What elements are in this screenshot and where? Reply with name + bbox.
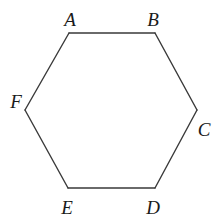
vertex-label-e: E [60,197,73,218]
vertex-labels: A B C D E F [9,9,210,218]
hexagon-edges [25,33,197,188]
edge-cd [155,110,197,188]
hexagon-figure: A B C D E F [0,0,218,217]
edge-fa [25,33,69,110]
hexagon-diagram: A B C D E F [0,0,218,217]
vertex-label-f: F [9,91,22,112]
vertex-label-b: B [147,9,159,30]
edge-ef [25,110,68,188]
vertex-label-a: A [62,9,76,30]
vertex-label-c: C [198,119,211,140]
edge-bc [155,33,197,110]
vertex-label-d: D [145,197,160,218]
